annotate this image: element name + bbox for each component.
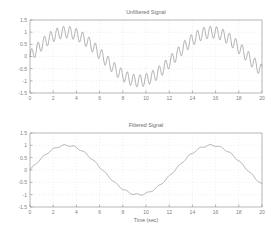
filtered-ytick-label: 1 (24, 142, 27, 148)
panel-filtered-signal: 02468101214161820-1.5-1-0.500.511.5 Filt… (0, 118, 274, 236)
unfiltered-ytick-label: -1 (23, 78, 28, 84)
filtered-ytick-label: -1.5 (18, 204, 27, 210)
unfiltered-xtick-label: 14 (190, 95, 196, 101)
filtered-ytick-label: 0 (24, 167, 27, 173)
unfiltered-tick-labels: 02468101214161820-1.5-1-0.500.511.5 (18, 17, 265, 101)
filtered-ytick-label: -1 (23, 192, 28, 198)
unfiltered-ytick-label: 0.5 (20, 41, 27, 47)
unfiltered-ytick-label: 1 (24, 29, 27, 35)
unfiltered-xtick-label: 20 (259, 95, 265, 101)
unfiltered-ytick-label: -1.5 (18, 90, 27, 96)
filtered-ytick-label: 0.5 (20, 155, 27, 161)
filtered-xtick-label: 18 (236, 209, 242, 215)
filtered-ytick-label: 1.5 (20, 130, 27, 136)
unfiltered-xtick-label: 10 (143, 95, 149, 101)
filtered-tick-labels: 02468101214161820-1.5-1-0.500.511.5 (18, 130, 265, 215)
unfiltered-ytick-label: 1.5 (20, 17, 27, 23)
filtered-xtick-label: 8 (121, 209, 124, 215)
unfiltered-xtick-label: 18 (236, 95, 242, 101)
filtered-xtick-label: 0 (29, 209, 32, 215)
unfiltered-panel-title: Unfiltered Signal (126, 9, 166, 15)
filtered-gridlines (30, 133, 262, 207)
unfiltered-ytick-label: 0 (24, 53, 27, 59)
unfiltered-xtick-label: 8 (121, 95, 124, 101)
unfiltered-xtick-label: 4 (75, 95, 78, 101)
filtered-xtick-label: 2 (52, 209, 55, 215)
filtered-xtick-label: 4 (75, 209, 78, 215)
unfiltered-xtick-label: 0 (29, 95, 32, 101)
filtered-xtick-label: 14 (190, 209, 196, 215)
panel-unfiltered-signal: 02468101214161820-1.5-1-0.500.511.5 Unfi… (0, 0, 274, 118)
unfiltered-xtick-label: 6 (98, 95, 101, 101)
filtered-xtick-label: 20 (259, 209, 265, 215)
filtered-xtick-label: 16 (213, 209, 219, 215)
unfiltered-xtick-label: 12 (166, 95, 172, 101)
unfiltered-ytick-label: -0.5 (18, 66, 27, 72)
unfiltered-xtick-label: 16 (213, 95, 219, 101)
filtered-xtick-label: 10 (143, 209, 149, 215)
filtered-xtick-label: 12 (166, 209, 172, 215)
filtered-panel-title: Filtered Signal (129, 122, 163, 128)
figure-root: 02468101214161820-1.5-1-0.500.511.5 Unfi… (0, 0, 274, 236)
filtered-signal-plot: 02468101214161820-1.5-1-0.500.511.5 Filt… (0, 118, 274, 236)
filtered-ytick-label: -0.5 (18, 179, 27, 185)
unfiltered-xtick-label: 2 (52, 95, 55, 101)
filtered-xtick-label: 6 (98, 209, 101, 215)
unfiltered-signal-plot: 02468101214161820-1.5-1-0.500.511.5 Unfi… (0, 0, 274, 118)
filtered-x-axis-label: Time (sec) (134, 217, 159, 223)
